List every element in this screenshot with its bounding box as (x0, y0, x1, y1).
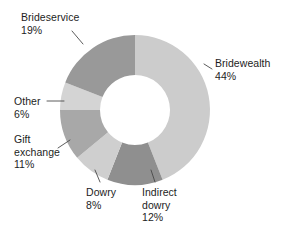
slice-label-gift-exchange-name-line2: exchange (14, 146, 60, 159)
slice-label-indirect-dowry-name-line2: dowry (142, 199, 177, 212)
slice-label-dowry-name: Dowry (86, 186, 116, 199)
slice-label-other-value: 6% (14, 108, 41, 121)
slice-label-gift-exchange-name-line1: Gift (14, 133, 60, 146)
donut-slices (60, 35, 210, 185)
slice-label-gift-exchange: Gift exchange 11% (14, 133, 60, 171)
slice-label-indirect-dowry-value: 12% (142, 211, 177, 224)
slice-label-gift-exchange-value: 11% (14, 158, 60, 171)
slice-label-other-name: Other (14, 95, 41, 108)
slice-label-bridewealth-value: 44% (215, 70, 270, 83)
chart-page: Brideservice 19% Bridewealth 44% Other 6… (0, 0, 288, 232)
slice-label-dowry: Dowry 8% (86, 186, 116, 211)
slice-label-indirect-dowry: Indirect dowry 12% (142, 186, 177, 224)
slice-label-brideservice-value: 19% (21, 24, 79, 37)
slice-label-brideservice-name: Brideservice (21, 11, 79, 24)
slice-label-other: Other 6% (14, 95, 41, 120)
slice-label-bridewealth-name: Bridewealth (215, 57, 270, 70)
leader-line-bridewealth (204, 64, 212, 69)
slice-label-brideservice: Brideservice 19% (21, 11, 79, 36)
slice-label-dowry-value: 8% (86, 199, 116, 212)
slice-label-bridewealth: Bridewealth 44% (215, 57, 270, 82)
slice-label-indirect-dowry-name-line1: Indirect (142, 186, 177, 199)
